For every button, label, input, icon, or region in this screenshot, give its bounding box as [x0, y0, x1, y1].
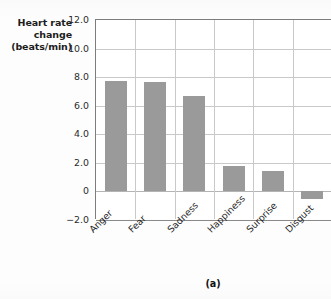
- x-tick-label-disgust: Disgust: [283, 202, 315, 234]
- x-tick-label-anger: Anger: [87, 207, 114, 234]
- x-tick-label-surprise: Surprise: [244, 200, 279, 235]
- x-tick-label-fear: Fear: [126, 213, 148, 235]
- x-axis-tick-labels: AngerFearSadnessHappinessSurpriseDisgust: [0, 0, 331, 299]
- figure-panel-a: Heart rate change (beats/min) 12.010.08.…: [0, 0, 331, 299]
- x-tick-label-sadness: Sadness: [165, 200, 200, 235]
- figure-caption: (a): [95, 278, 331, 289]
- x-tick-label-happiness: Happiness: [205, 193, 247, 235]
